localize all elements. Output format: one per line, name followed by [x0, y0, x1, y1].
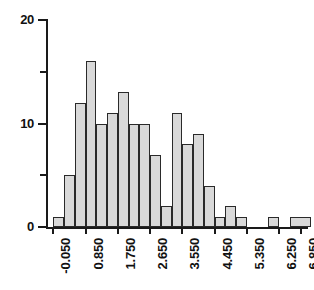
x-tick-label-4: 3.550 — [188, 238, 201, 270]
y-tick-5 — [40, 174, 48, 176]
histogram-chart: 01020 -0.0500.8501.7502.6503.5504.4505.3… — [0, 0, 314, 290]
histogram-bar — [118, 92, 129, 227]
histogram-bar — [139, 124, 150, 228]
x-tick-label-7: 6.250 — [285, 238, 298, 270]
x-tick-5 — [214, 229, 216, 234]
x-tick-7 — [278, 229, 280, 234]
histogram-bar — [86, 61, 97, 227]
x-tick-label-8: 6.850 — [307, 238, 314, 270]
x-tick-label-6: 5.350 — [253, 238, 266, 270]
x-tick-label-2: 1.750 — [124, 238, 137, 270]
y-tick-10 — [38, 123, 48, 125]
x-tick-1 — [85, 229, 87, 234]
x-tick-2 — [117, 229, 119, 234]
x-tick-label-3: 2.650 — [156, 238, 169, 270]
histogram-bar — [182, 144, 193, 227]
x-tick-8 — [300, 229, 302, 234]
histogram-bar — [172, 113, 183, 227]
x-tick-0 — [52, 229, 54, 234]
histogram-bar — [161, 206, 172, 227]
histogram-bar — [193, 134, 204, 227]
x-tick-6 — [246, 229, 248, 234]
y-tick-label-0: 0 — [0, 220, 34, 233]
x-tick-label-1: 0.850 — [92, 238, 105, 270]
histogram-bar — [96, 124, 107, 228]
histogram-bar — [225, 206, 236, 227]
histogram-bar — [150, 155, 161, 227]
histogram-bar — [107, 113, 118, 227]
histogram-bar — [64, 175, 75, 227]
x-tick-label-5: 4.450 — [221, 238, 234, 270]
histogram-bar — [268, 217, 279, 227]
histogram-bar — [75, 103, 86, 227]
histogram-bar — [215, 217, 226, 227]
histogram-bar — [53, 217, 64, 227]
plot-area — [48, 20, 306, 227]
x-tick-4 — [181, 229, 183, 234]
y-tick-label-10: 10 — [0, 117, 34, 130]
histogram-bar — [129, 124, 140, 228]
x-tick-3 — [149, 229, 151, 234]
histogram-bar — [236, 217, 247, 227]
y-tick-15 — [40, 71, 48, 73]
y-tick-20 — [38, 19, 48, 21]
y-tick-label-20: 20 — [0, 13, 34, 26]
histogram-bar — [204, 186, 215, 227]
histogram-bar — [290, 217, 312, 227]
x-tick-label-0: -0.050 — [59, 238, 72, 274]
